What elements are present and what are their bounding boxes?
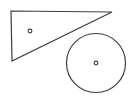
figure-canvas — [0, 0, 137, 101]
triangle-center-marker-icon — [28, 29, 32, 33]
geometry-figure-svg — [0, 0, 137, 101]
circle-shape[interactable] — [67, 34, 126, 93]
circle-center-marker-icon — [94, 61, 98, 65]
triangle-shape[interactable] — [11, 11, 112, 61]
